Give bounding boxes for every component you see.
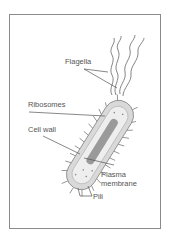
label-flagella: Flagella	[65, 58, 91, 66]
label-plasma-membrane-line1: Plasma	[101, 171, 126, 179]
label-pili: Pili	[93, 193, 103, 201]
label-cell-wall: Cell wall	[28, 126, 56, 134]
label-ribosomes: Ribosomes	[28, 101, 66, 109]
flagella-icon	[111, 35, 144, 96]
bacterium-illustration	[0, 0, 170, 242]
label-plasma-membrane-line2: membrane	[101, 180, 137, 188]
